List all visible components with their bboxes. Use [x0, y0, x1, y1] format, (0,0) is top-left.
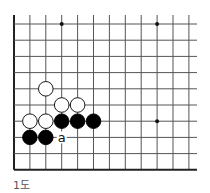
white-stone	[39, 82, 54, 97]
star-point	[155, 22, 159, 26]
black-stone	[54, 114, 69, 129]
white-stone	[70, 98, 85, 113]
white-stone	[23, 114, 38, 129]
diagram-caption: 1도	[13, 176, 30, 192]
black-stone	[39, 130, 54, 145]
star-point	[155, 119, 159, 123]
white-stone	[39, 114, 54, 129]
black-stone	[23, 130, 38, 145]
star-point	[60, 22, 64, 26]
point-label: a	[58, 130, 66, 145]
point-labels: a	[57, 130, 67, 145]
go-board: a	[0, 0, 210, 193]
black-stone	[86, 114, 101, 129]
white-stone	[54, 98, 69, 113]
black-stone	[70, 114, 85, 129]
